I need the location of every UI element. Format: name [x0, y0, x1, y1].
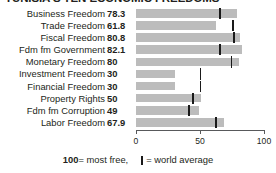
world-average-marker-icon: [232, 20, 234, 31]
row-label: Monetary Freedom: [26, 56, 105, 67]
row-plot: [136, 93, 265, 104]
row-value: 49: [107, 105, 132, 116]
row-plot: [136, 8, 265, 19]
table-row: Fdm fm Corruption49: [0, 105, 276, 117]
score-bar: [136, 21, 216, 30]
x-axis-label-0: 0: [121, 136, 151, 146]
table-row: Fdm fm Government82.1: [0, 44, 276, 56]
world-average-marker-icon: [215, 117, 217, 128]
row-label: Property Rights: [40, 93, 105, 104]
chart-legend: 100 = most free, = world average: [0, 153, 276, 167]
table-row: Trade Freedom61.8: [0, 20, 276, 32]
page-title: TUNISIA'S TEN ECONOMIC FREEDOMS: [5, 0, 219, 4]
table-row: Labor Freedom67.9: [0, 117, 276, 129]
legend-world-average-text: = world average: [146, 154, 213, 166]
table-row: Monetary Freedom80: [0, 56, 276, 68]
table-row: Investment Freedom30: [0, 68, 276, 80]
row-plot: [136, 117, 265, 128]
score-bar: [136, 33, 240, 42]
x-axis-label-100: 100: [249, 136, 276, 146]
row-plot: [136, 81, 265, 92]
world-average-marker-icon: [219, 8, 221, 19]
world-average-marker-icon: [233, 32, 235, 43]
row-label: Fiscal Freedom: [40, 32, 105, 43]
row-label: Labor Freedom: [41, 117, 105, 128]
world-average-marker-icon: [192, 93, 194, 104]
row-label: Fdm fm Government: [19, 44, 105, 55]
x-axis-label-50: 50: [185, 136, 215, 146]
row-value: 82.1: [107, 44, 132, 55]
legend-most-free-text: = most free,: [78, 154, 128, 166]
world-average-marker-icon: [200, 68, 202, 79]
table-row: Financial Freedom30: [0, 81, 276, 93]
table-row: Fiscal Freedom80.8: [0, 32, 276, 44]
score-bar: [136, 82, 175, 91]
bar-rows: Business Freedom78.3Trade Freedom61.8Fis…: [0, 8, 276, 129]
x-axis-tick-50: [200, 130, 201, 134]
world-average-marker-icon: [141, 156, 143, 165]
world-average-marker-icon: [219, 44, 221, 55]
row-label: Trade Freedom: [41, 20, 105, 31]
row-value: 67.9: [107, 117, 132, 128]
row-value: 30: [107, 68, 132, 79]
economic-freedoms-chart: TUNISIA'S TEN ECONOMIC FREEDOMS Business…: [0, 0, 276, 173]
row-label: Fdm fm Corruption: [27, 105, 105, 116]
world-average-marker-icon: [231, 56, 233, 67]
table-row: Business Freedom78.3: [0, 8, 276, 20]
score-bar: [136, 70, 175, 79]
row-value: 61.8: [107, 20, 132, 31]
row-plot: [136, 20, 265, 31]
score-bar: [136, 118, 224, 127]
row-value: 30: [107, 81, 132, 92]
legend-most-free-number: 100: [63, 154, 79, 166]
row-label: Investment Freedom: [19, 68, 105, 79]
row-plot: [136, 105, 265, 116]
row-value: 80.8: [107, 32, 132, 43]
score-bar: [136, 58, 239, 67]
row-label: Business Freedom: [27, 8, 105, 19]
row-plot: [136, 68, 265, 79]
row-plot: [136, 32, 265, 43]
row-value: 80: [107, 56, 132, 67]
world-average-marker-icon: [188, 105, 190, 116]
x-axis-tick-100: [264, 130, 265, 134]
x-axis-tick-0: [136, 130, 137, 134]
row-plot: [136, 44, 265, 55]
score-bar: [136, 45, 242, 54]
table-row: Property Rights50: [0, 93, 276, 105]
row-plot: [136, 56, 265, 67]
world-average-marker-icon: [200, 81, 202, 92]
score-bar: [136, 9, 237, 18]
chart-title-clipped: TUNISIA'S TEN ECONOMIC FREEDOMS: [0, 0, 276, 6]
row-value: 50: [107, 93, 132, 104]
row-value: 78.3: [107, 8, 132, 19]
row-label: Financial Freedom: [27, 81, 105, 92]
